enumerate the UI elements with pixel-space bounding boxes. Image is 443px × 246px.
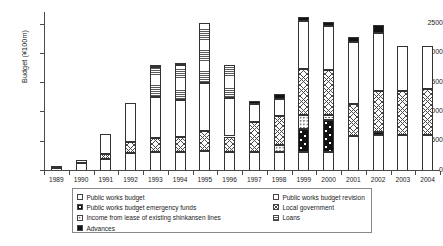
legend-item-label: Public works budget revision bbox=[282, 193, 364, 202]
bar-segment bbox=[224, 65, 235, 98]
bar-segment bbox=[199, 23, 210, 83]
bar-segment bbox=[348, 136, 359, 171]
bar-segment bbox=[51, 166, 62, 168]
bar-1998 bbox=[274, 1, 285, 171]
x-tick bbox=[217, 171, 218, 175]
legend-item-label: Public works budget bbox=[86, 193, 144, 202]
bar-1992 bbox=[125, 1, 136, 171]
bar-segment bbox=[373, 25, 384, 33]
x-tick bbox=[415, 171, 416, 175]
bar-segment bbox=[373, 135, 384, 171]
x-tick bbox=[292, 171, 293, 175]
bar-segment bbox=[298, 69, 309, 116]
bar-segment bbox=[100, 154, 111, 159]
bar-segment bbox=[199, 131, 210, 150]
legend-item-label: Local government bbox=[282, 203, 334, 212]
x-tick bbox=[391, 171, 392, 175]
bar-1990 bbox=[76, 1, 87, 171]
legend-column-left: Public works budgetPublic works budget e… bbox=[77, 192, 273, 234]
bar-segment bbox=[175, 65, 186, 100]
legend-item[interactable]: Advances bbox=[77, 223, 273, 233]
bar-1989 bbox=[51, 1, 62, 171]
bar-segment bbox=[175, 100, 186, 137]
bar-2004 bbox=[422, 1, 433, 171]
bar-segment bbox=[323, 70, 334, 115]
x-tick bbox=[193, 171, 194, 175]
x-tick bbox=[316, 171, 317, 175]
bar-segment bbox=[274, 152, 285, 171]
bar-1999 bbox=[298, 1, 309, 171]
bar-segment bbox=[249, 101, 260, 105]
legend-item[interactable]: Loans bbox=[273, 213, 373, 223]
bar-segment bbox=[298, 21, 309, 68]
x-tick bbox=[267, 171, 268, 175]
bar-1997 bbox=[249, 1, 260, 171]
x-tick bbox=[242, 171, 243, 175]
bar-segment bbox=[249, 152, 260, 171]
legend-swatch-icon bbox=[77, 194, 83, 200]
x-tick-label: 2004 bbox=[414, 176, 442, 183]
bar-segment bbox=[100, 134, 111, 154]
bar-segment bbox=[175, 152, 186, 171]
bar-segment bbox=[125, 103, 136, 142]
x-tick bbox=[69, 171, 70, 175]
bar-segment bbox=[224, 152, 235, 171]
legend-item[interactable]: Public works budget revision bbox=[273, 192, 373, 202]
x-tick bbox=[94, 171, 95, 175]
bar-1996 bbox=[224, 1, 235, 171]
bar-segment bbox=[373, 132, 384, 136]
x-tick bbox=[143, 171, 144, 175]
bar-segment bbox=[125, 153, 136, 171]
bar-2001 bbox=[348, 1, 359, 171]
bar-segment bbox=[323, 152, 334, 171]
legend-item[interactable]: Public works budget bbox=[77, 192, 273, 202]
bar-2003 bbox=[397, 1, 408, 171]
bar-segment bbox=[422, 46, 433, 88]
bar-segment bbox=[323, 22, 334, 27]
x-tick bbox=[366, 171, 367, 175]
legend-swatch-icon bbox=[273, 215, 279, 221]
bar-segment bbox=[348, 42, 359, 104]
bar-1993 bbox=[150, 1, 161, 171]
legend-column-right: Public works budget revisionLocal govern… bbox=[273, 192, 373, 223]
bar-segment bbox=[125, 142, 136, 153]
bar-1995 bbox=[199, 1, 210, 171]
bar-segment bbox=[175, 63, 186, 65]
legend-swatch-icon bbox=[77, 225, 83, 231]
bar-segment bbox=[150, 65, 161, 67]
bar-segment bbox=[298, 129, 309, 152]
bar-segment bbox=[274, 94, 285, 99]
plot-area bbox=[0, 0, 443, 171]
bar-2000 bbox=[323, 1, 334, 171]
legend-swatch-icon bbox=[273, 204, 279, 210]
legend: Public works budgetPublic works budget e… bbox=[72, 188, 372, 233]
bar-1991 bbox=[100, 1, 111, 171]
bar-segment bbox=[274, 116, 285, 145]
bar-segment bbox=[348, 37, 359, 42]
bar-segment bbox=[175, 137, 186, 152]
stacked-bar-chart: Budget (¥100m) 05001000150020002500 1989… bbox=[0, 0, 443, 246]
legend-item[interactable]: Income from lease of existing shinkansen… bbox=[77, 213, 273, 223]
bar-segment bbox=[150, 97, 161, 138]
legend-item-label: Loans bbox=[282, 213, 300, 222]
bar-segment bbox=[224, 137, 235, 152]
bar-segment bbox=[150, 138, 161, 151]
bar-segment bbox=[373, 33, 384, 91]
bar-segment bbox=[298, 17, 309, 22]
legend-item[interactable]: Local government bbox=[273, 202, 373, 212]
bar-segment bbox=[397, 46, 408, 92]
bar-segment bbox=[274, 145, 285, 151]
bar-segment bbox=[397, 135, 408, 171]
bar-segment bbox=[422, 89, 433, 135]
bar-segment bbox=[274, 99, 285, 116]
bar-segment bbox=[199, 151, 210, 171]
bar-segment bbox=[224, 98, 235, 137]
legend-swatch-icon bbox=[77, 204, 83, 210]
x-tick bbox=[341, 171, 342, 175]
legend-item[interactable]: Public works budget emergency funds bbox=[77, 202, 273, 212]
bar-2002 bbox=[373, 1, 384, 171]
x-tick bbox=[118, 171, 119, 175]
bar-segment bbox=[249, 104, 260, 122]
x-tick bbox=[440, 171, 441, 175]
bar-segment bbox=[397, 91, 408, 134]
